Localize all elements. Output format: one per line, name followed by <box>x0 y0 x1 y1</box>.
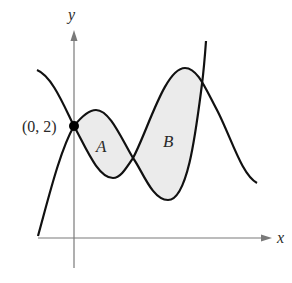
x-axis-arrow-icon <box>261 235 272 242</box>
region-a-label: A <box>95 137 107 156</box>
intersection-point-marker <box>69 121 79 131</box>
x-axis-label: x <box>276 229 284 246</box>
y-axis-arrow-icon <box>71 30 78 41</box>
point-label: (0, 2) <box>22 118 57 136</box>
area-between-curves-diagram: y x (0, 2) A B <box>0 0 292 283</box>
y-axis-label: y <box>66 6 76 24</box>
region-b-label: B <box>163 132 174 151</box>
